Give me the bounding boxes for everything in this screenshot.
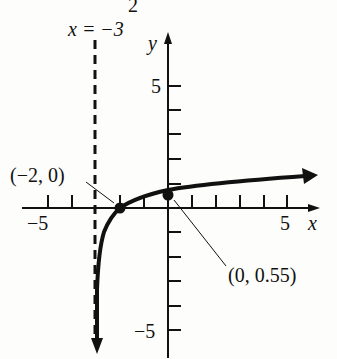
curve-arrow-right-icon <box>302 168 318 184</box>
y-axis-label: y <box>146 32 157 55</box>
x-tick-label-neg5: −5 <box>27 212 48 234</box>
y-tick-label-5: 5 <box>151 75 161 97</box>
asymptote-label: x = −3 <box>67 18 124 40</box>
x-axis-arrow-icon <box>308 204 320 212</box>
curve <box>97 176 305 345</box>
graph-canvas: 2 x = −3 y 5 −5 x −5 5 <box>0 0 337 359</box>
leader-line-1 <box>86 182 114 203</box>
point-label-0-055: (0, 0.55) <box>228 264 296 287</box>
y-tick-label-neg5: −5 <box>134 320 155 342</box>
point-label-neg2-0: (−2, 0) <box>10 164 65 187</box>
point-neg2-0 <box>115 203 126 214</box>
top-fragment: 2 <box>128 0 138 16</box>
point-0-055 <box>163 190 174 201</box>
x-tick-label-5: 5 <box>280 212 290 234</box>
leader-line-2 <box>174 200 226 266</box>
x-axis-label: x <box>307 212 317 234</box>
y-axis-arrow-icon <box>164 32 172 44</box>
curve-arrow-down-icon <box>91 338 103 354</box>
